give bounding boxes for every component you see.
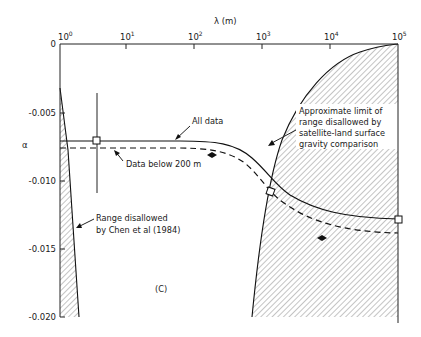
svg-text:100: 100 bbox=[58, 30, 73, 42]
label-chen-line2: by Chen et al (1984) bbox=[96, 225, 180, 235]
label-satellite-line4: gravity comparison bbox=[299, 139, 378, 149]
label-satellite-line2: range disallowed by bbox=[299, 117, 381, 127]
label-satellite-line1: Approximate limit of bbox=[299, 106, 384, 116]
svg-text:102: 102 bbox=[188, 30, 203, 42]
y-axis-title: α bbox=[22, 140, 28, 150]
label-chen-line1: Range disallowed bbox=[96, 213, 168, 223]
x-axis-title: λ (m) bbox=[214, 16, 237, 26]
chen-disallowed-region bbox=[60, 88, 79, 317]
svg-text:0: 0 bbox=[51, 39, 56, 49]
x-tick-labels: 100 101 102 103 104 105 bbox=[58, 30, 407, 42]
marker-open-square bbox=[395, 216, 402, 223]
svg-text:-0.005: -0.005 bbox=[29, 108, 56, 118]
svg-text:103: 103 bbox=[256, 30, 271, 42]
svg-text:-0.020: -0.020 bbox=[29, 312, 56, 322]
y-tick-labels: 0 -0.005 -0.010 -0.015 -0.020 bbox=[29, 39, 56, 322]
label-satellite-line3: satellite-land surface bbox=[299, 128, 385, 138]
panel-label: (C) bbox=[155, 284, 167, 294]
arrowhead-icon bbox=[114, 150, 120, 156]
svg-text:-0.010: -0.010 bbox=[29, 176, 56, 186]
marker-filled-diamond bbox=[207, 152, 217, 158]
label-all-data: All data bbox=[192, 116, 223, 126]
svg-text:101: 101 bbox=[120, 30, 135, 42]
arrowhead-icon bbox=[268, 140, 275, 146]
marker-open-square bbox=[93, 137, 100, 144]
x-ticks bbox=[126, 44, 330, 49]
chart-alpha-vs-lambda: 100 101 102 103 104 105 λ (m) 0 -0.005 -… bbox=[0, 0, 421, 337]
svg-text:104: 104 bbox=[324, 30, 339, 42]
svg-text:105: 105 bbox=[392, 30, 407, 42]
label-data-below-200m: Data below 200 m bbox=[126, 159, 201, 169]
svg-text:-0.015: -0.015 bbox=[29, 244, 56, 254]
